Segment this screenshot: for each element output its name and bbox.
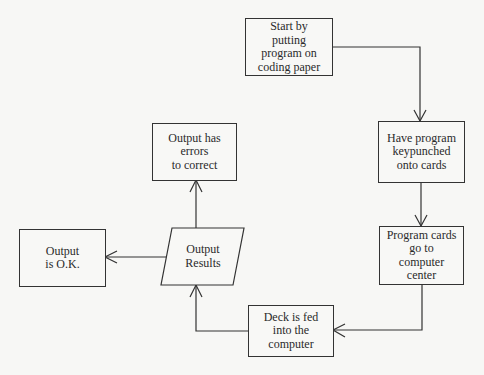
node-deck: Deck is fed into the computer (248, 305, 334, 357)
flow-connectors (0, 0, 484, 375)
edge-start-to-keypunch (332, 47, 420, 121)
node-text: errors (181, 145, 209, 159)
node-text: Deck is fed (264, 311, 319, 325)
node-ok: Output is O.K. (19, 229, 106, 287)
node-text: Program cards (387, 229, 457, 243)
edge-cards-to-deck (333, 284, 422, 330)
node-text: Output has (168, 132, 220, 146)
node-text: putting (272, 34, 306, 48)
node-text: into the (273, 324, 309, 338)
node-text: computer (399, 256, 444, 270)
node-text: Results (185, 257, 220, 271)
node-text: onto cards (397, 159, 447, 173)
node-text: computer (268, 338, 313, 352)
node-text: Start by (270, 20, 308, 34)
node-keypunch: Have program keypunched onto cards (378, 121, 465, 183)
edge-deck-to-output (196, 285, 248, 331)
node-errors: Output has errors to correct (152, 123, 237, 181)
node-text: is O.K. (45, 258, 79, 272)
node-text: Output (46, 245, 79, 259)
node-text: to correct (172, 159, 218, 173)
node-text: Output (186, 243, 219, 257)
node-output: Output Results (163, 228, 243, 285)
node-text: go to (409, 242, 433, 256)
node-text: center (407, 269, 436, 283)
node-text: coding paper (258, 61, 320, 75)
node-text: keypunched (393, 145, 451, 159)
node-cards: Program cards go to computer center (379, 226, 464, 285)
node-text: program on (261, 47, 317, 61)
node-start: Start by putting program on coding paper (245, 18, 333, 76)
node-text: Have program (387, 132, 456, 146)
